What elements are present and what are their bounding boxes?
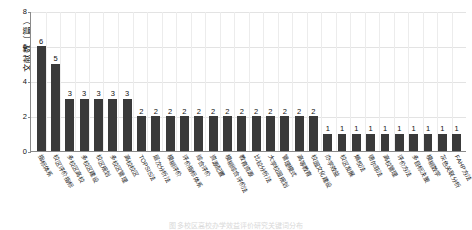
bar-value-label: 2 (197, 107, 201, 116)
bar-slot: 2 (235, 12, 249, 151)
bar: 2 (237, 116, 246, 151)
bar: 3 (65, 99, 74, 152)
x-label-slot: FAHP方法 (449, 154, 463, 212)
bar-slot: 3 (120, 12, 134, 151)
x-label-slot: 评价指标体系 (177, 154, 191, 212)
bar: 2 (209, 116, 218, 151)
bar-value-label: 1 (369, 124, 373, 133)
bar-value-label: 3 (68, 89, 72, 98)
bar-value-label: 2 (154, 107, 158, 116)
bar: 2 (151, 116, 160, 151)
bar-value-label: 2 (254, 107, 258, 116)
x-label-slot: 比较分析法 (248, 154, 262, 212)
bar: 1 (424, 134, 433, 152)
bar: 2 (266, 116, 275, 151)
bar: 2 (295, 116, 304, 151)
x-label-slot: 校园文化建设 (306, 154, 320, 212)
bar-slot: 2 (149, 12, 163, 151)
x-label-slot: 指标体系 (33, 154, 47, 212)
bar-slot: 2 (163, 12, 177, 151)
bar-value-label: 1 (455, 124, 459, 133)
bar-slot: 1 (335, 12, 349, 151)
bar-value-label: 2 (211, 107, 215, 116)
x-label-slot: 办学效益 (320, 154, 334, 212)
bar-slot: 6 (34, 12, 48, 151)
x-label-slot: 多校区管理 (105, 154, 119, 212)
bar: 1 (409, 134, 418, 152)
x-label-slot: 模糊综合评价法 (220, 154, 234, 212)
bar-value-label: 2 (297, 107, 301, 116)
bar-slot: 3 (77, 12, 91, 151)
bar-slot: 2 (220, 12, 234, 151)
bar: 5 (51, 64, 60, 152)
bar: 2 (180, 116, 189, 151)
bar-slot: 3 (63, 12, 77, 151)
bar-slot: 1 (364, 12, 378, 151)
bar-slot: 3 (91, 12, 105, 151)
bar: 2 (194, 116, 203, 151)
bar: 2 (223, 116, 232, 151)
y-axis-tick-mark (28, 152, 31, 153)
bar-value-label: 1 (340, 124, 344, 133)
bar: 1 (438, 134, 447, 152)
bar-slot: 2 (206, 12, 220, 151)
bar-value-label: 3 (125, 89, 129, 98)
bar: 3 (123, 99, 132, 152)
x-label-slot: 校区评价指标 (47, 154, 61, 212)
bar-value-label: 2 (240, 107, 244, 116)
bar-slot: 2 (306, 12, 320, 151)
x-axis-tick-label: FAHP方法 (453, 154, 472, 182)
bar-slot: 1 (349, 12, 363, 151)
bar-slot: 1 (435, 12, 449, 151)
x-label-slot: 评价方法 (392, 154, 406, 212)
bar-value-label: 1 (383, 124, 387, 133)
x-label-slot: 教育资源 (234, 154, 248, 212)
bar-value-label: 1 (426, 124, 430, 133)
x-label-slot: 层次分析法 (148, 154, 162, 212)
bar-value-label: 2 (139, 107, 143, 116)
bar-slot: 1 (421, 12, 435, 151)
x-label-slot: 高等教育 (291, 154, 305, 212)
bar-slot: 2 (278, 12, 292, 151)
bar-value-label: 2 (311, 107, 315, 116)
x-label-slot: 高校管理 (378, 154, 392, 212)
bar: 3 (108, 99, 117, 152)
plot-area: 02468 653333322222222222221111111111 (30, 12, 466, 152)
x-label-slot: 熵权法 (349, 154, 363, 212)
x-label-slot: 管理模式 (277, 154, 291, 212)
bar-value-label: 1 (440, 124, 444, 133)
bar-series: 653333322222222222221111111111 (31, 12, 466, 151)
x-axis-labels: 指标体系校区评价指标多校区高校多校区建设校区规划多校区管理高校校区TOPSIS法… (30, 154, 466, 212)
bar-slot: 1 (321, 12, 335, 151)
bar-slot: 1 (450, 12, 464, 151)
bar: 1 (381, 134, 390, 152)
bar: 1 (352, 134, 361, 152)
bar-slot: 1 (392, 12, 406, 151)
bar-slot: 2 (134, 12, 148, 151)
bar-value-label: 2 (268, 107, 272, 116)
bar-slot: 1 (407, 12, 421, 151)
y-axis-tick-label: 4 (23, 78, 27, 86)
bar-slot: 2 (249, 12, 263, 151)
x-label-slot: 多目标决策 (406, 154, 420, 212)
bar-value-label: 2 (283, 107, 287, 116)
x-label-slot: 高校校区 (119, 154, 133, 212)
bar-value-label: 1 (397, 124, 401, 133)
bar-slot: 3 (106, 12, 120, 151)
bar: 3 (94, 99, 103, 152)
bar-value-label: 1 (412, 124, 416, 133)
figure-caption: 图 多校区高校办学效益评价研究关键词分布 (0, 220, 472, 230)
x-label-slot: 校区发展 (335, 154, 349, 212)
bar-value-label: 5 (53, 54, 57, 63)
bar-value-label: 2 (225, 107, 229, 116)
bar-slot: 5 (48, 12, 62, 151)
x-label-slot: 多校区高校 (62, 154, 76, 212)
bar-value-label: 3 (82, 89, 86, 98)
bar-value-label: 2 (168, 107, 172, 116)
x-label-slot: 德尔菲法 (363, 154, 377, 212)
bar: 2 (252, 116, 261, 151)
x-label-slot: 灰色关联分析 (435, 154, 449, 212)
bar: 1 (323, 134, 332, 152)
bar-slot: 2 (177, 12, 191, 151)
bar-value-label: 6 (39, 37, 43, 46)
